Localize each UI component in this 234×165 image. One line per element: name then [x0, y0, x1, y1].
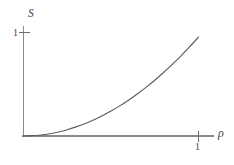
x-axis-label: ρ: [218, 127, 224, 139]
data-curve: [24, 37, 199, 136]
y-axis-label: S: [28, 8, 34, 20]
y-axis-tick-label-1: 1: [13, 28, 18, 38]
x-axis-tick-label-1: 1: [195, 142, 200, 152]
chart-figure: S ρ 1 1: [0, 0, 234, 165]
